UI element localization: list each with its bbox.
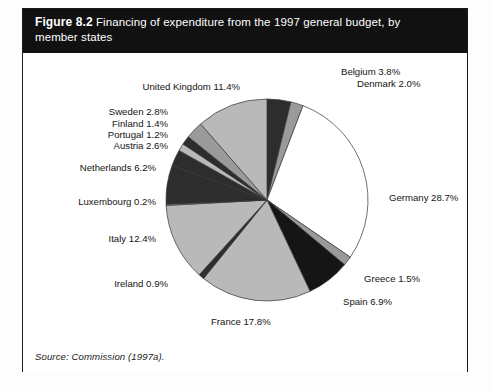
pie-label-denmark: Denmark 2.0%	[357, 78, 421, 89]
chart-body: Belgium 3.8%Denmark 2.0%Germany 28.7%Gre…	[23, 53, 467, 373]
figure-title-line-1: Figure 8.2 Financing of expenditure from…	[35, 15, 455, 30]
figure-number: Figure 8.2	[35, 15, 93, 29]
source-note: Source: Commission (1997a).	[35, 351, 165, 362]
pie-label-austria: Austria 2.6%	[114, 140, 169, 151]
figure-title-text-2: member states	[35, 31, 112, 43]
figure-title-band: Figure 8.2 Financing of expenditure from…	[23, 9, 467, 53]
pie-chart: Belgium 3.8%Denmark 2.0%Germany 28.7%Gre…	[23, 53, 469, 373]
pie-label-germany: Germany 28.7%	[389, 192, 459, 203]
pie-label-united-kingdom: United Kingdom 11.4%	[143, 81, 241, 92]
pie-label-netherlands: Netherlands 6.2%	[80, 162, 157, 173]
pie-label-france: France 17.8%	[211, 316, 271, 327]
figure-page: Figure 8.2 Financing of expenditure from…	[0, 0, 491, 390]
pie-label-greece: Greece 1.5%	[364, 273, 420, 284]
pie-label-luxembourg: Luxembourg 0.2%	[78, 196, 156, 207]
pie-label-sweden: Sweden 2.8%	[109, 106, 169, 117]
pie-label-finland: Finland 1.4%	[112, 118, 168, 129]
figure-title-line-2: member states	[35, 30, 455, 45]
pie-label-portugal: Portugal 1.2%	[108, 129, 169, 140]
figure-title-text-1: Financing of expenditure from the 1997 g…	[96, 16, 400, 28]
pie-slice-group	[166, 99, 368, 301]
pie-label-italy: Italy 12.4%	[109, 233, 157, 244]
pie-label-belgium: Belgium 3.8%	[341, 66, 401, 77]
figure-frame: Figure 8.2 Financing of expenditure from…	[22, 8, 468, 372]
pie-label-ireland: Ireland 0.9%	[114, 278, 168, 289]
pie-label-spain: Spain 6.9%	[343, 296, 393, 307]
